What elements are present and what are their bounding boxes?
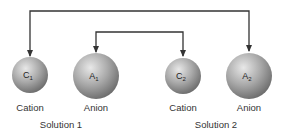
- cation-2-label: Cation: [169, 102, 196, 113]
- anion-1-label: Anion: [84, 102, 108, 113]
- cation-1-sphere: C1: [12, 57, 48, 93]
- ion-exchange-diagram: C1 A1 C2 A2: [0, 0, 288, 134]
- arrow-down-icon: [27, 50, 33, 57]
- arrow-down-icon: [93, 46, 99, 53]
- cation-2-sphere: C2: [165, 58, 201, 94]
- solution-2-label: Solution 2: [195, 119, 237, 130]
- arrow-down-icon: [246, 45, 252, 52]
- anion-2-label: Anion: [237, 102, 261, 113]
- anion-2-sphere: A2: [226, 53, 272, 99]
- outer-connector: [27, 11, 252, 57]
- inner-connector: [93, 32, 186, 57]
- solution-1-label: Solution 1: [40, 119, 82, 130]
- anion-1-sphere: A1: [73, 53, 119, 99]
- arrow-down-icon: [180, 50, 186, 57]
- cation-1-label: Cation: [16, 102, 43, 113]
